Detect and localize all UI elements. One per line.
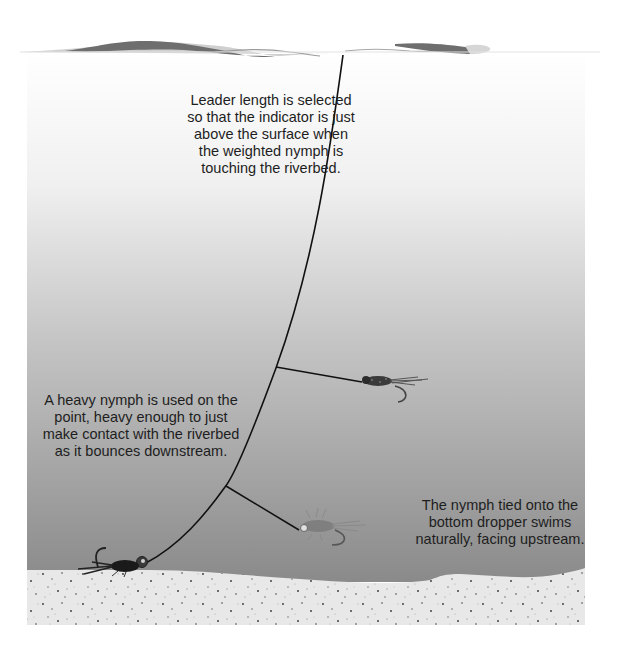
leader-length-caption: Leader length is selected so that the in… xyxy=(182,92,360,177)
bottom-dropper-caption: The nymph tied onto the bottom dropper s… xyxy=(400,497,600,548)
heavy-nymph-caption: A heavy nymph is used on the point, heav… xyxy=(42,392,240,460)
